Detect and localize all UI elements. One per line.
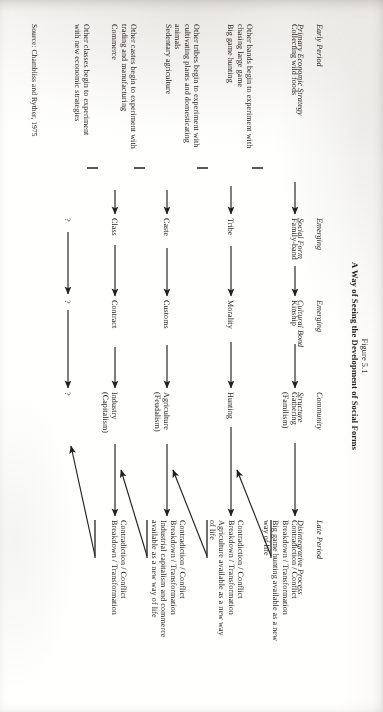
scanned-page: Figure 5.1 A Way of Seeing the Developme… (0, 0, 383, 712)
feedback-arrow-2 (173, 470, 207, 556)
feedback-arrow-4 (71, 446, 95, 556)
feedback-arrow-3 (121, 470, 147, 556)
figure-canvas: Figure 5.1 A Way of Seeing the Developme… (0, 0, 383, 712)
flow-arrows (0, 0, 383, 712)
feedback-arrow-1 (237, 470, 271, 556)
